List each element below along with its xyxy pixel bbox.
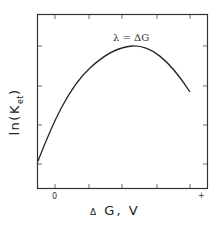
delta-symbol: Δ [90, 207, 98, 217]
x-axis-label: Δ G, V [90, 203, 160, 218]
chart-plot-area [0, 0, 219, 225]
x-tick-label-plus: + [198, 191, 205, 200]
marcus-curve [38, 46, 190, 161]
y-axis-label-main: ln(K [7, 104, 22, 135]
y-axis-label-close: ) [7, 88, 22, 95]
y-axis-label: ln(Ket) [7, 77, 23, 147]
y-axis-label-subscript: et [16, 95, 25, 104]
peak-annotation: λ = ΔG [113, 32, 149, 43]
x-tick-label-zero: 0 [52, 192, 57, 201]
right-ticks [203, 46, 207, 164]
x-axis-label-text: G, V [104, 203, 139, 218]
left-ticks [38, 46, 42, 164]
bottom-ticks [55, 184, 190, 188]
top-ticks [55, 15, 190, 19]
